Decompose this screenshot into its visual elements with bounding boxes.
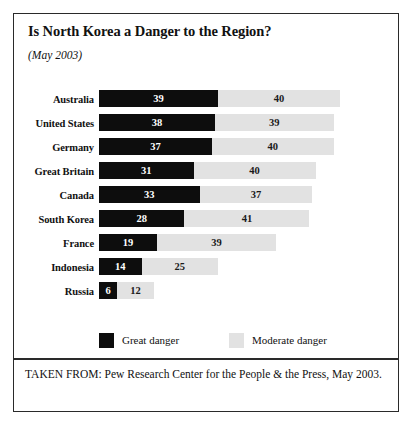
bar-segment-great-danger: 28 <box>99 210 184 227</box>
bar-segment-great-danger: 6 <box>99 282 117 299</box>
source-note: TAKEN FROM: Pew Research Center for the … <box>25 366 387 383</box>
bar-row-label: Great Britain <box>14 165 94 176</box>
bar-stack: 3337 <box>99 186 312 203</box>
bar-stack: 3140 <box>99 162 316 179</box>
legend-label-great-danger: Great danger <box>122 334 179 346</box>
bar-segment-great-danger: 14 <box>99 258 142 275</box>
bar-row: Canada3337 <box>14 186 400 203</box>
bar-row: South Korea2841 <box>14 210 400 227</box>
bar-segment-moderate-danger: 39 <box>215 114 334 131</box>
bar-row-label: France <box>14 237 94 248</box>
bar-row-label: South Korea <box>14 213 94 224</box>
bar-segment-great-danger: 33 <box>99 186 200 203</box>
bar-segment-moderate-danger: 39 <box>157 234 276 251</box>
bar-row-label: Canada <box>14 189 94 200</box>
bar-segment-great-danger: 38 <box>99 114 215 131</box>
bar-segment-great-danger: 39 <box>99 90 218 107</box>
bar-segment-great-danger: 31 <box>99 162 194 179</box>
bar-segment-moderate-danger: 25 <box>142 258 218 275</box>
chart-legend: Great danger Moderate danger <box>14 330 400 350</box>
bar-row-label: Australia <box>14 93 94 104</box>
bar-stack: 3940 <box>99 90 340 107</box>
bar-stack: 1939 <box>99 234 276 251</box>
bar-chart-plot: Australia3940United States3839Germany374… <box>14 90 400 306</box>
chart-figure: Is North Korea a Danger to the Region? (… <box>13 13 399 412</box>
bar-row: Germany3740 <box>14 138 400 155</box>
legend-swatch-great-danger-icon <box>99 333 114 348</box>
legend-item-great-danger: Great danger <box>99 330 179 350</box>
bar-row-label: United States <box>14 117 94 128</box>
bar-row-label: Indonesia <box>14 261 94 272</box>
legend-label-moderate-danger: Moderate danger <box>252 334 327 346</box>
bar-segment-moderate-danger: 40 <box>212 138 334 155</box>
bar-row: United States3839 <box>14 114 400 131</box>
chart-title: Is North Korea a Danger to the Region? <box>28 23 271 40</box>
bar-row: Great Britain3140 <box>14 162 400 179</box>
bar-stack: 1425 <box>99 258 218 275</box>
bar-row-label: Russia <box>14 285 94 296</box>
bar-segment-moderate-danger: 12 <box>117 282 154 299</box>
chart-subtitle: (May 2003) <box>28 49 82 61</box>
bar-row: Indonesia1425 <box>14 258 400 275</box>
bar-segment-great-danger: 19 <box>99 234 157 251</box>
bar-stack: 612 <box>99 282 154 299</box>
bar-row: Australia3940 <box>14 90 400 107</box>
bar-segment-moderate-danger: 40 <box>194 162 316 179</box>
bar-row: France1939 <box>14 234 400 251</box>
legend-swatch-moderate-danger-icon <box>229 333 244 348</box>
bar-segment-moderate-danger: 37 <box>200 186 313 203</box>
source-divider <box>14 358 398 360</box>
bar-stack: 2841 <box>99 210 309 227</box>
bar-row: Russia612 <box>14 282 400 299</box>
bar-stack: 3740 <box>99 138 334 155</box>
bar-stack: 3839 <box>99 114 334 131</box>
bar-row-label: Germany <box>14 141 94 152</box>
bar-segment-great-danger: 37 <box>99 138 212 155</box>
legend-item-moderate-danger: Moderate danger <box>229 330 327 350</box>
bar-segment-moderate-danger: 41 <box>184 210 309 227</box>
bar-segment-moderate-danger: 40 <box>218 90 340 107</box>
